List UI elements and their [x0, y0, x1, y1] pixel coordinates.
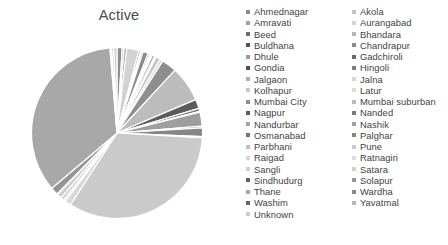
legend-swatch-icon — [352, 43, 356, 47]
legend-item-label: Parbhani — [254, 141, 292, 152]
legend-item[interactable]: Akola — [346, 6, 448, 17]
legend-item-label: Unknown — [254, 209, 293, 220]
legend-item-label: Beed — [254, 29, 276, 40]
legend-swatch-icon — [352, 156, 356, 160]
legend-item[interactable]: Gadchiroli — [346, 51, 448, 62]
legend-item[interactable]: Solapur — [346, 175, 448, 186]
legend-item[interactable]: Buldhana — [240, 40, 346, 51]
legend-item[interactable]: Parbhani — [240, 141, 346, 152]
legend-item[interactable]: Hingoli — [346, 62, 448, 73]
legend-swatch-icon — [352, 122, 356, 126]
legend-swatch-icon — [246, 145, 250, 149]
legend-swatch-icon — [352, 100, 356, 104]
legend-item[interactable]: Raigad — [240, 152, 346, 163]
legend-item[interactable]: Kolhapur — [240, 85, 346, 96]
legend-item-label: Nagpur — [254, 107, 285, 118]
legend-swatch-icon — [246, 32, 250, 36]
legend-item[interactable]: Jalgaon — [240, 74, 346, 85]
legend-swatch-icon — [352, 145, 356, 149]
legend-item-label: Bhandara — [360, 29, 401, 40]
legend-swatch-icon — [246, 156, 250, 160]
legend-item[interactable]: Thane — [240, 186, 346, 197]
legend-item[interactable]: Amravati — [240, 17, 346, 28]
legend-item[interactable]: Osmanabad — [240, 130, 346, 141]
legend-item-label: Sangli — [254, 164, 280, 175]
legend-swatch-icon — [246, 21, 250, 25]
legend-item-label: Dhule — [254, 51, 279, 62]
legend-item[interactable]: Nashik — [346, 119, 448, 130]
legend-item-label: Washim — [254, 197, 288, 208]
chart-title: Active — [0, 7, 238, 23]
legend-item-label: Pune — [360, 141, 382, 152]
legend-item[interactable]: Bhandara — [346, 29, 448, 40]
legend-item-label: Amravati — [254, 17, 291, 28]
legend-swatch-icon — [352, 10, 356, 14]
legend-item-label: Nashik — [360, 119, 389, 130]
legend-item[interactable]: Yavatmal — [346, 197, 448, 208]
legend-item[interactable]: Gondia — [240, 62, 346, 73]
legend-item[interactable]: Ahmednagar — [240, 6, 346, 17]
pie-chart-plot-area — [31, 47, 203, 219]
legend-item[interactable]: Palghar — [346, 130, 448, 141]
legend-swatch-icon — [246, 122, 250, 126]
legend-item[interactable]: Beed — [240, 29, 346, 40]
legend-item[interactable]: Jalna — [346, 74, 448, 85]
legend-item-label: Mumbai suburban — [360, 96, 436, 107]
legend-swatch-icon — [246, 190, 250, 194]
legend-item-label: Ahmednagar — [254, 6, 308, 17]
legend-item[interactable]: Pune — [346, 141, 448, 152]
legend-swatch-icon — [246, 88, 250, 92]
legend-item-label: Gadchiroli — [360, 51, 403, 62]
legend-item-label: Buldhana — [254, 40, 294, 51]
legend-item[interactable]: Sangli — [240, 164, 346, 175]
legend-swatch-icon — [246, 133, 250, 137]
legend-swatch-icon — [246, 167, 250, 171]
legend-swatch-icon — [246, 178, 250, 182]
legend-item-label: Gondia — [254, 62, 285, 73]
legend-item-label: Wardha — [360, 186, 393, 197]
legend-item[interactable]: Wardha — [346, 186, 448, 197]
legend-item[interactable]: Nagpur — [240, 107, 346, 118]
legend-item[interactable]: Chandrapur — [346, 40, 448, 51]
legend-swatch-icon — [352, 32, 356, 36]
legend-item[interactable]: Aurangabad — [346, 17, 448, 28]
legend-swatch-icon — [352, 66, 356, 70]
legend-item-label: Yavatmal — [360, 197, 399, 208]
legend-swatch-icon — [352, 133, 356, 137]
legend-item-label: Hingoli — [360, 62, 389, 73]
legend-item-label: Mumbai City — [254, 96, 307, 107]
legend-item[interactable]: Ratnagiri — [346, 152, 448, 163]
legend-swatch-icon — [246, 55, 250, 59]
legend-item[interactable]: Unknown — [240, 209, 346, 220]
legend-item[interactable]: Satara — [346, 164, 448, 175]
legend-item[interactable]: Mumbai suburban — [346, 96, 448, 107]
legend-item[interactable]: Latur — [346, 85, 448, 96]
legend-item[interactable]: Sindhudurg — [240, 175, 346, 186]
legend-item[interactable]: Dhule — [240, 51, 346, 62]
legend-item-label: Nanded — [360, 107, 393, 118]
legend-column-2: AkolaAurangabadBhandaraChandrapurGadchir… — [346, 6, 448, 209]
legend-item-label: Chandrapur — [360, 40, 410, 51]
legend-item-label: Kolhapur — [254, 85, 292, 96]
legend-swatch-icon — [352, 111, 356, 115]
legend-swatch-icon — [352, 77, 356, 81]
legend-swatch-icon — [246, 77, 250, 81]
legend-item[interactable]: Nandurbar — [240, 119, 346, 130]
legend-swatch-icon — [352, 21, 356, 25]
legend-item-label: Palghar — [360, 130, 393, 141]
legend-swatch-icon — [246, 111, 250, 115]
legend-swatch-icon — [352, 190, 356, 194]
legend-item-label: Jalgaon — [254, 74, 287, 85]
chart-legend: AhmednagarAmravatiBeedBuldhanaDhuleGondi… — [240, 6, 448, 240]
legend-item[interactable]: Mumbai City — [240, 96, 346, 107]
legend-item-label: Raigad — [254, 152, 284, 163]
legend-item[interactable]: Nanded — [346, 107, 448, 118]
pie-chart-figure: Active AhmednagarAmravatiBeedBuldhanaDhu… — [0, 0, 448, 245]
legend-swatch-icon — [352, 201, 356, 205]
legend-item[interactable]: Washim — [240, 197, 346, 208]
legend-item-label: Ratnagiri — [360, 152, 398, 163]
legend-swatch-icon — [246, 66, 250, 70]
legend-item-label: Sindhudurg — [254, 175, 302, 186]
legend-swatch-icon — [246, 43, 250, 47]
legend-item-label: Akola — [360, 6, 384, 17]
